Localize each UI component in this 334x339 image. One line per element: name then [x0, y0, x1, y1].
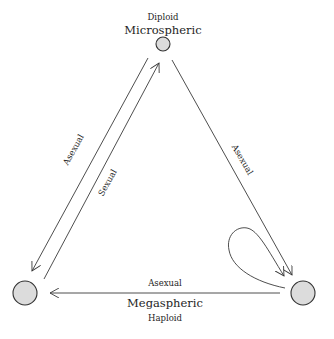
edge-label-top-to-right: Asexual: [229, 142, 255, 177]
edge-label-left-to-top: Sexual: [96, 167, 119, 197]
megaspheric-node: [291, 281, 315, 305]
self-loop-arrow: [228, 228, 285, 288]
asexual-arrow-top-to-left: [32, 58, 148, 271]
asexual-arrow-top-to-right: [172, 60, 292, 275]
bottom-node-name-label: Megaspheric: [127, 296, 203, 310]
microspheric-node: [156, 37, 170, 51]
sexual-arrow-left-to-top: [44, 63, 159, 279]
edge-label-right-to-left: Asexual: [147, 278, 182, 288]
edge-label-top-to-left: Asexual: [60, 132, 86, 167]
left-node: [13, 281, 37, 305]
bottom-node-ploidy-label: Haploid: [148, 313, 182, 323]
top-node-name-label: Microspheric: [124, 23, 201, 37]
top-node-ploidy-label: Diploid: [148, 12, 180, 22]
life-cycle-diagram: Diploid Microspheric Asexual Sexual Asex…: [0, 0, 334, 339]
